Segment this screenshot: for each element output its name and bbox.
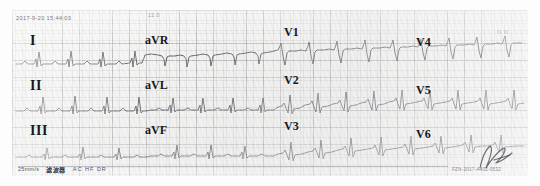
lead-label-aVL: aVL bbox=[145, 79, 168, 91]
recording-timestamp: 2017-9-20 15:44:03 bbox=[16, 16, 71, 22]
handwritten-signature bbox=[474, 144, 516, 172]
paper-speed-value: 25mm/s bbox=[18, 166, 39, 172]
lead-label-V3: V3 bbox=[284, 120, 299, 132]
lead-label-aVF: aVF bbox=[145, 124, 167, 136]
lead-label-II: II bbox=[30, 79, 42, 93]
lead-label-III: III bbox=[30, 124, 48, 138]
filter-codes: AC HF DR bbox=[73, 166, 107, 172]
ecg-paper bbox=[12, 10, 528, 176]
lead-label-V5: V5 bbox=[416, 84, 431, 96]
ecg-waveform-traces bbox=[12, 10, 528, 176]
gain-marker: 12.0 bbox=[148, 13, 160, 18]
lead-label-V1: V1 bbox=[284, 26, 299, 38]
trace-row-2 bbox=[16, 90, 524, 114]
trace-row-1 bbox=[16, 36, 522, 67]
footer-settings: 25mm/s 滤波器 AC HF DR bbox=[18, 162, 518, 176]
lead-label-V2: V2 bbox=[284, 74, 299, 86]
lead-label-V4: V4 bbox=[416, 36, 431, 48]
corner-marker: II II bbox=[497, 30, 509, 35]
lead-label-I: I bbox=[30, 34, 36, 48]
trace-row-3 bbox=[16, 135, 524, 161]
lead-label-V6: V6 bbox=[416, 128, 431, 140]
filter-label: 滤波器 bbox=[46, 165, 66, 174]
lead-label-aVR: aVR bbox=[145, 34, 168, 46]
ecg-printout: I II III aVR aVL aVF V1 V2 V3 V4 V5 V6 2… bbox=[0, 0, 540, 186]
